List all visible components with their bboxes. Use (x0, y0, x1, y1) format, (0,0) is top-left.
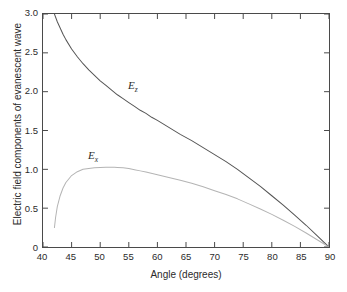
x-tick-label: 85 (296, 252, 307, 262)
y-tick-label: 2.5 (25, 47, 38, 57)
x-tick-label: 80 (267, 252, 278, 262)
plot-area (42, 13, 330, 248)
y-axis-title: Electric field components of evanescent … (13, 4, 23, 244)
x-tick-label: 60 (152, 252, 163, 262)
x-axis-title: Angle (degrees) (42, 270, 330, 280)
curve-ex (54, 167, 329, 247)
x-tick-label: 55 (123, 252, 134, 262)
curve-label-ex: Ex (88, 150, 98, 164)
y-tick-label: 3.0 (25, 8, 38, 18)
x-tick-label: 40 (37, 252, 48, 262)
y-tick-label: 0.5 (25, 204, 38, 214)
x-axis-tick-labels: 4045505560657075808590 (0, 252, 347, 266)
x-tick-label: 75 (238, 252, 249, 262)
x-tick-label: 45 (66, 252, 77, 262)
x-tick-label: 50 (94, 252, 105, 262)
curve-ez (54, 14, 329, 247)
x-tick-label: 70 (210, 252, 221, 262)
y-tick-label: 1.5 (25, 126, 38, 136)
x-tick-label: 65 (181, 252, 192, 262)
curve-label-ez: Ez (128, 80, 138, 94)
curve-canvas (43, 14, 329, 247)
evanescent-wave-chart: 00.51.01.52.02.53.0 Ez Ex 40455055606570… (0, 0, 347, 292)
x-tick-label: 90 (325, 252, 336, 262)
y-tick-label: 2.0 (25, 86, 38, 96)
y-tick-label: 1.0 (25, 165, 38, 175)
